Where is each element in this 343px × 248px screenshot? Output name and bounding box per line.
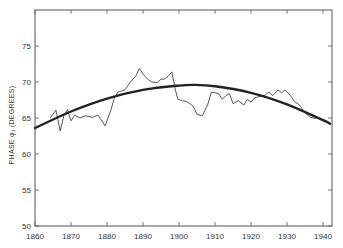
y-tick-label: 60: [22, 150, 31, 159]
y-tick-label: 70: [22, 78, 31, 87]
phase-chart: 186018701880189019001910192019301940 505…: [0, 0, 343, 248]
y-axis-label: PHASE φ₁ (DEGREES): [8, 86, 16, 165]
x-tick-label: 1860: [26, 232, 44, 241]
y-tick-label: 55: [22, 186, 31, 195]
x-tick-label: 1890: [134, 232, 152, 241]
y-axis: 505560657075: [22, 42, 332, 231]
x-tick-label: 1880: [98, 232, 116, 241]
x-tick-label: 1940: [314, 232, 332, 241]
fitted-curve-line: [35, 85, 330, 128]
x-tick-label: 1900: [170, 232, 188, 241]
x-tick-label: 1930: [278, 232, 296, 241]
y-tick-label: 65: [22, 114, 31, 123]
x-axis: 186018701880189019001910192019301940: [26, 10, 332, 241]
x-tick-label: 1920: [242, 232, 260, 241]
x-tick-label: 1910: [206, 232, 224, 241]
y-tick-label: 50: [22, 222, 31, 231]
x-tick-label: 1870: [62, 232, 80, 241]
y-tick-label: 75: [22, 42, 31, 51]
